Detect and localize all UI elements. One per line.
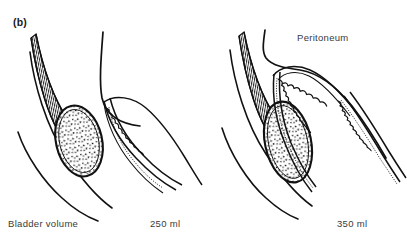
bowel-right-limb-right-panel [338,92,406,184]
bowel-scalloped-wall-right-limb-left-panel [104,97,202,185]
figure-panel-b: (b) Peritoneum Bladder volume 250 ml 350… [0,0,407,247]
bladder-volume-row-label: Bladder volume [8,218,78,229]
panel-label-b: (b) [13,16,27,28]
bowel-fundus-curve-left [104,97,202,185]
right-panel-group [222,30,406,219]
left-panel-group [18,32,202,221]
peritoneum-label: Peritoneum [297,32,349,43]
bowel-outer-contour2-left [110,98,182,185]
bladder-volume-value-left: 250 ml [150,218,180,229]
bowel-scalloped-wall-left [104,104,163,193]
bladder-volume-value-right: 350 ml [337,218,367,229]
